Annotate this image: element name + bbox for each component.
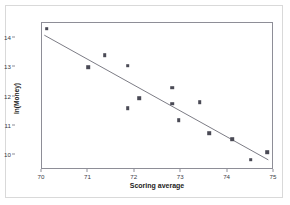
- figure-container: 1011121314 707172737475 Scoring average …: [5, 5, 283, 198]
- x-tick-label: 71: [84, 173, 91, 180]
- data-point: [126, 64, 130, 68]
- y-tick-label: 10: [4, 151, 11, 158]
- y-tick-mark: [12, 36, 15, 37]
- x-tick-mark: [273, 169, 274, 172]
- y-tick-mark: [12, 154, 15, 155]
- y-tick-label: 12: [4, 92, 11, 99]
- x-tick-mark: [41, 169, 42, 172]
- data-point: [170, 86, 174, 90]
- data-point: [207, 131, 211, 135]
- x-tick-label: 75: [270, 173, 277, 180]
- data-point: [138, 96, 142, 100]
- x-tick-mark: [226, 169, 227, 172]
- data-point: [126, 106, 130, 110]
- x-tick-label: 72: [130, 173, 137, 180]
- x-tick-label: 70: [38, 173, 45, 180]
- y-tick-label: 14: [4, 33, 11, 40]
- data-point: [177, 118, 181, 122]
- data-point: [103, 54, 107, 58]
- data-point: [265, 151, 269, 155]
- y-tick-label: 13: [4, 63, 11, 70]
- x-tick-label: 73: [177, 173, 184, 180]
- trend-line-segment: [44, 35, 268, 160]
- y-axis-title: ln(Money): [13, 59, 20, 139]
- x-axis-title: Scoring average: [41, 182, 273, 189]
- data-point: [230, 137, 234, 141]
- y-tick-label: 11: [5, 121, 11, 128]
- data-point: [45, 27, 49, 31]
- data-point: [170, 102, 174, 106]
- x-tick-mark: [133, 169, 134, 172]
- regression-line: [42, 23, 272, 168]
- x-tick-mark: [180, 169, 181, 172]
- data-point: [87, 65, 91, 69]
- x-tick-mark: [87, 169, 88, 172]
- data-point: [249, 158, 253, 162]
- plot-area: [41, 22, 273, 169]
- data-point: [198, 101, 202, 105]
- x-tick-label: 74: [223, 173, 230, 180]
